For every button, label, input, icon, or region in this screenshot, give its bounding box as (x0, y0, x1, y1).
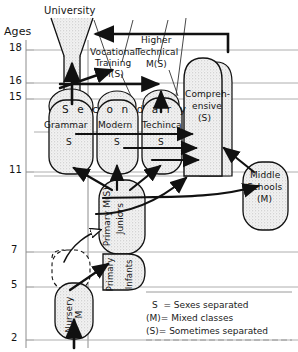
axis-tick-18: 18 (9, 43, 22, 53)
node-label-primary-infants-line1: Primary (106, 258, 115, 292)
node-label-technical: Techinca (142, 121, 182, 130)
node-label-technical-sep: S (158, 138, 164, 147)
legend-line-sometimes-separated: (S)= Sometimes separated (146, 325, 268, 338)
axis-tick-5: 5 (11, 280, 17, 290)
node-label-vocational-line2: Training (95, 59, 131, 68)
legend-line-mixed-classes: (M)= Mixed classes (146, 312, 233, 325)
axis-tick-2: 2 (11, 333, 17, 343)
node-label-middle-schools-line2: Schools (247, 183, 282, 192)
node-label-comprehensive-line2: ensive (192, 102, 222, 111)
node-label-vocational-line1: Vocational (90, 48, 138, 57)
axis-tick-16: 16 (9, 76, 22, 86)
axis-tick-7: 7 (11, 245, 17, 255)
node-label-higher-technical-line1: Higher (141, 36, 172, 45)
node-label-comprehensive-line3: (S) (198, 114, 211, 123)
node-label-nursery-line1: Nursery (65, 297, 74, 333)
node-label-higher-technical-line3: M(S) (146, 60, 167, 69)
node-label-nursery-line2: M (75, 311, 84, 319)
node-label-primary-juniors-line1: Primary M(S) (103, 187, 112, 246)
node-label-comprehensive-line1: Compreh- (185, 90, 230, 99)
node-label-middle-schools-line1: Middle (250, 171, 280, 180)
diagram-canvas: Ages 18 16 15 11 7 5 2 University Vocati… (0, 0, 298, 352)
axis-tick-15: 15 (9, 92, 22, 102)
banner-secondary: S e c o n d a r y (62, 104, 189, 115)
axis-title: Ages (4, 26, 31, 37)
node-label-university: University (44, 6, 95, 16)
node-label-middle-schools-line3: (M) (257, 195, 272, 204)
node-label-grammar-sep: S (66, 138, 72, 147)
node-label-higher-technical-line2: Technical (136, 48, 178, 57)
node-label-modern-sep: S (114, 138, 120, 147)
node-label-primary-juniors-line2: Juniors (116, 203, 125, 234)
node-label-modern: Modern (98, 121, 132, 130)
node-label-primary-infants-line2: Infants (125, 259, 134, 289)
axis-tick-11: 11 (9, 165, 22, 175)
node-label-vocational-line3: M(S) (103, 70, 124, 79)
node-label-grammar: Grammar (44, 121, 88, 130)
legend-line-sexes-separated: S = Sexes separated (152, 299, 249, 312)
